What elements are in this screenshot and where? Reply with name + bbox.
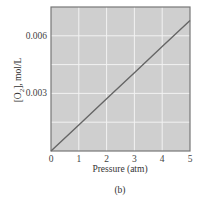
x-tick-label: 4 xyxy=(160,154,165,164)
plot-background xyxy=(51,7,190,151)
y-axis-ticks: 0.0030.006 xyxy=(26,31,48,99)
x-axis-label: Pressure (atm) xyxy=(92,164,147,175)
chart: 012345 0.0030.006 Pressure (atm) (b) [O2… xyxy=(0,0,208,203)
figure-caption: (b) xyxy=(114,185,125,196)
x-tick-label: 3 xyxy=(132,154,137,164)
plot-area xyxy=(51,7,190,151)
y-tick-label: 0.003 xyxy=(26,88,48,98)
x-axis-ticks: 012345 xyxy=(49,154,193,164)
x-tick-label: 2 xyxy=(104,154,109,164)
y-axis-label: [O2], mol/L xyxy=(13,57,26,102)
x-tick-label: 1 xyxy=(76,154,81,164)
y-tick-label: 0.006 xyxy=(26,31,48,41)
x-tick-label: 5 xyxy=(188,154,193,164)
x-tick-label: 0 xyxy=(49,154,54,164)
